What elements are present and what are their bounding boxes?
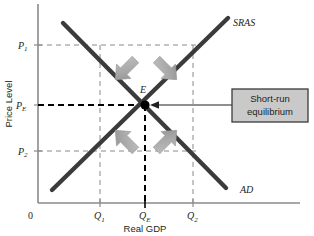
equilibrium-point-label: E <box>139 84 146 95</box>
callout-leader <box>150 101 232 109</box>
x-axis-title: Real GDP <box>124 223 167 234</box>
callout-line-2: equilibrium <box>247 106 293 117</box>
callout-arrowhead-icon <box>150 101 159 109</box>
short-run-equilibrium-callout[interactable]: Short-run equilibrium <box>232 89 308 122</box>
x-tick-labels: Q1 QE Q2 <box>94 210 198 224</box>
x-tick-label-q1: Q1 <box>94 210 105 224</box>
y-tick-label-pe: PE <box>15 100 27 114</box>
sras-curve-label: SRAS <box>233 17 255 28</box>
y-axis-title: Price Level <box>3 81 14 128</box>
x-tick-label-qe: QE <box>139 210 151 224</box>
ad-sras-chart-svg: Short-run equilibrium SRAS AD E P1 PE P2… <box>0 0 314 236</box>
arrow-top-left-icon <box>108 52 142 86</box>
x-tick-label-q2: Q2 <box>187 210 198 224</box>
callout-line-1: Short-run <box>250 93 290 104</box>
y-tick-labels: P1 PE P2 <box>15 40 28 160</box>
economics-diagram: Short-run equilibrium SRAS AD E P1 PE P2… <box>0 0 314 236</box>
equilibrium-point-marker[interactable] <box>140 100 149 109</box>
ad-curve-label: AD <box>239 184 254 195</box>
y-tick-label-p1: P1 <box>17 40 28 54</box>
arrow-top-right-icon <box>149 52 183 86</box>
y-tick-label-p2: P2 <box>17 146 28 160</box>
origin-label: 0 <box>28 210 33 221</box>
